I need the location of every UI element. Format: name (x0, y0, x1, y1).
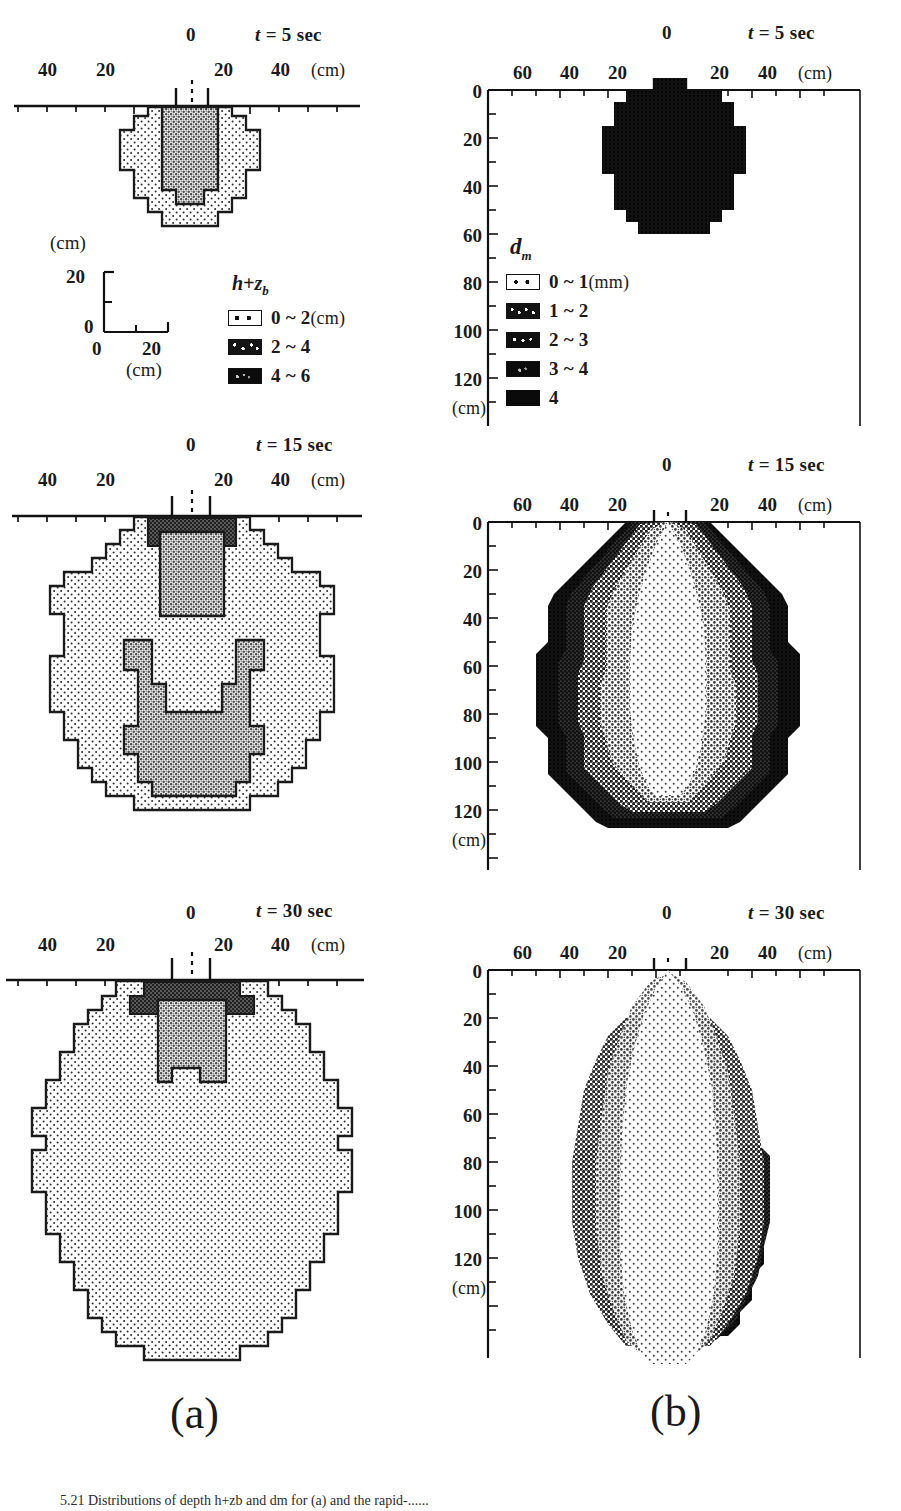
legend-range-0: 0 ~ 2 (271, 307, 310, 328)
b-legend-range-3: 3 ~ 4 (549, 358, 588, 379)
panel-b-t15-time-label: t = 15 sec (748, 454, 825, 476)
b-legend-range-0: 0 ~ 1 (549, 271, 588, 292)
time-value: = 30 sec (267, 900, 333, 921)
figure-caption: 5.21 Distributions of depth h+zb and dm … (60, 1492, 861, 1511)
time-value: = 15 sec (267, 434, 333, 455)
panel-b-legend-title-main: d (510, 234, 522, 259)
b-legend-range-4: 4 (549, 387, 559, 408)
panel-a-plot-t30: 0 t = 30 sec 40 20 20 40 (cm) (0, 900, 440, 1400)
panel-b-legend-title: dm (506, 234, 736, 264)
panel-a-letter: (a) (170, 1388, 219, 1439)
panel-b-t15-yticks (488, 546, 498, 858)
panel-b-legend-label-4: 4 (549, 387, 559, 409)
panel-a-legend: h+zb 0 ~ 2(cm) 2 ~ 4 4 ~ 6 (228, 272, 428, 390)
legend-swatch-light-stipple (228, 310, 262, 326)
panel-a-t15-zero-label: 0 (186, 434, 196, 456)
time-value: = 5 sec (759, 22, 815, 43)
time-value: = 5 sec (266, 24, 322, 45)
panel-b-plot-t5: 0 t = 5 sec 60 40 20 20 40 (cm) 0 20 40 … (440, 18, 901, 438)
time-variable: t (748, 902, 754, 923)
legend-swatch-b-mid1 (506, 303, 540, 319)
time-value: = 15 sec (759, 454, 825, 475)
legend-range-2: 4 ~ 6 (271, 365, 310, 386)
panel-b-legend-row-2: 2 ~ 3 (506, 326, 736, 355)
panel-a-t5-time-label: t = 5 sec (255, 24, 322, 46)
panel-b-t30-yticks (488, 994, 498, 1330)
panel-a-legend-label-2: 4 ~ 6 (271, 365, 310, 387)
panel-a-legend-label-1: 2 ~ 4 (271, 336, 310, 358)
scale-inset-axes (44, 232, 234, 372)
panel-a-t15-region-mid-top (160, 532, 224, 616)
panel-b-legend-label-3: 3 ~ 4 (549, 358, 588, 380)
panel-b-t5-zero-label: 0 (662, 22, 672, 44)
b-legend-range-1: 1 ~ 2 (549, 300, 588, 321)
legend-swatch-b-mid2 (506, 332, 540, 348)
panel-a-plot-t15: 0 t = 15 sec 40 20 20 40 (cm) (0, 432, 440, 862)
panel-b-plot-t15: 0 t = 15 sec 60 40 20 20 40 (cm) 0 20 40… (440, 450, 901, 890)
panel-b-t15-zero-label: 0 (662, 454, 672, 476)
legend-swatch-dark-stipple (228, 368, 262, 384)
panel-b-t15-canvas (440, 510, 901, 890)
panel-a-t15-time-label: t = 15 sec (256, 434, 333, 456)
panel-a-t15-canvas (0, 488, 440, 868)
panel-b-legend-row-1: 1 ~ 2 (506, 297, 736, 326)
legend-swatch-b-solid (506, 390, 540, 406)
legend-swatch-b-light (506, 274, 540, 290)
panel-b-letter: (b) (650, 1386, 701, 1437)
panel-a-t30-zero-label: 0 (186, 902, 196, 924)
panel-b-t5-yticks (488, 114, 498, 402)
panel-b-t30-zero-label: 0 (662, 902, 672, 924)
b-legend-unit-0: (mm) (588, 272, 629, 292)
panel-b-legend-label-2: 2 ~ 3 (549, 329, 588, 351)
legend-unit-0: (cm) (310, 308, 345, 328)
time-value: = 30 sec (759, 902, 825, 923)
panel-b-legend-row-0: 0 ~ 1(mm) (506, 268, 736, 297)
panel-a-legend-row-2: 4 ~ 6 (228, 361, 428, 390)
time-variable: t (256, 900, 262, 921)
panel-b-t5-region-solid (602, 78, 746, 234)
panel-b-legend-label-1: 1 ~ 2 (549, 300, 588, 322)
panel-b-legend-label-0: 0 ~ 1(mm) (549, 271, 629, 293)
legend-swatch-b-dark (506, 361, 540, 377)
panel-a-legend-row-1: 2 ~ 4 (228, 332, 428, 361)
panel-a-scale-inset: (cm) 20 0 0 20 (cm) (44, 232, 234, 372)
panel-a-legend-label-0: 0 ~ 2(cm) (271, 307, 345, 329)
panel-b-t30-time-label: t = 30 sec (748, 902, 825, 924)
panel-a-t5-region-mid (162, 107, 218, 204)
time-variable: t (256, 434, 262, 455)
panel-a-t5-zero-label: 0 (186, 24, 196, 46)
panel-a-t30-time-label: t = 30 sec (256, 900, 333, 922)
time-variable: t (255, 24, 261, 45)
b-legend-range-2: 2 ~ 3 (549, 329, 588, 350)
time-variable: t (748, 22, 754, 43)
panel-b-t5-time-label: t = 5 sec (748, 22, 815, 44)
panel-b-legend-row-3: 3 ~ 4 (506, 355, 736, 384)
panel-a-legend-title-sub: b (262, 283, 269, 298)
time-variable: t (748, 454, 754, 475)
panel-b-plot-t30: 0 t = 30 sec 60 40 20 20 40 (cm) 0 20 40… (440, 900, 901, 1370)
legend-range-1: 2 ~ 4 (271, 336, 310, 357)
panel-a-legend-title: h+zb (228, 272, 428, 299)
panel-b-legend-title-sub: m (522, 248, 532, 263)
panel-a-legend-title-main: h+z (232, 272, 262, 294)
panel-a-legend-row-0: 0 ~ 2(cm) (228, 303, 428, 332)
legend-swatch-mid-stipple (228, 339, 262, 355)
panel-b-legend-row-4: 4 (506, 384, 736, 413)
panel-b-legend: dm 0 ~ 1(mm) 1 ~ 2 2 ~ 3 (506, 234, 736, 413)
panel-b-t30-canvas (440, 958, 901, 1368)
panel-a-t30-canvas (0, 952, 440, 1402)
